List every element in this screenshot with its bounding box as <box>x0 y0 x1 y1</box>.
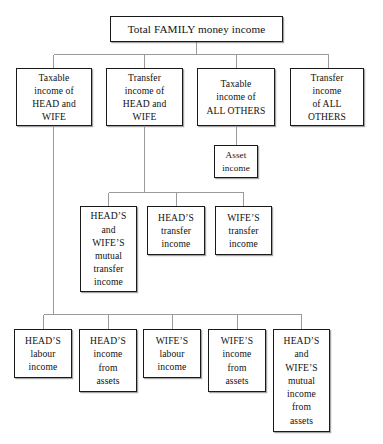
node-head-transfer-income[interactable]: HEAD’S transfer income <box>147 206 205 255</box>
node-head-wife-mutual-income-from-assets[interactable]: HEAD’S and WIFE’S mutual income from ass… <box>273 329 330 432</box>
node-label: Taxable income of ALL OTHERS <box>198 77 274 117</box>
node-wife-labour-income[interactable]: WIFE’S labour income <box>143 329 201 378</box>
node-label: HEAD’S and WIFE’S mutual income from ass… <box>274 334 329 426</box>
node-wife-income-from-assets[interactable]: WIFE’S income from assets <box>208 329 266 392</box>
node-taxable-income-all-others[interactable]: Taxable income of ALL OTHERS <box>197 68 275 126</box>
node-label: HEAD’S and WIFE’S mutual transfer income <box>81 209 136 288</box>
node-label: Transfer income of HEAD and WIFE <box>107 71 182 124</box>
node-head-wife-mutual-transfer-income[interactable]: HEAD’S and WIFE’S mutual transfer income <box>80 206 137 292</box>
node-label: Taxable income of HEAD and WIFE <box>17 71 91 124</box>
node-label: HEAD’S income from assets <box>80 334 136 387</box>
node-label: Total FAMILY money income <box>111 22 282 36</box>
node-asset-income[interactable]: Asset income <box>214 145 258 178</box>
income-decomposition-diagram: Total FAMILY money income Taxable income… <box>0 0 383 444</box>
node-total-family-money-income[interactable]: Total FAMILY money income <box>110 16 283 42</box>
node-label: HEAD’S transfer income <box>148 211 204 251</box>
node-wife-transfer-income[interactable]: WIFE’S transfer income <box>215 206 272 255</box>
node-label: WIFE’S labour income <box>144 334 200 374</box>
node-transfer-income-all-others[interactable]: Transfer income of ALL OTHERS <box>290 68 364 126</box>
node-label: WIFE’S transfer income <box>216 211 271 251</box>
node-label: Transfer income of ALL OTHERS <box>291 71 363 124</box>
node-transfer-income-head-wife[interactable]: Transfer income of HEAD and WIFE <box>106 68 183 126</box>
node-head-income-from-assets[interactable]: HEAD’S income from assets <box>79 329 137 392</box>
node-taxable-income-head-wife[interactable]: Taxable income of HEAD and WIFE <box>16 68 92 126</box>
node-label: HEAD’S labour income <box>15 334 71 374</box>
node-head-labour-income[interactable]: HEAD’S labour income <box>14 329 72 378</box>
node-label: Asset income <box>215 149 257 174</box>
node-label: WIFE’S income from assets <box>209 334 265 387</box>
